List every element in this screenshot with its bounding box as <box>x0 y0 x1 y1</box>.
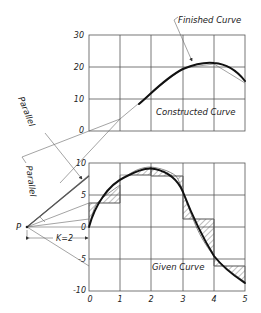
y-tick-30: 30 <box>74 31 84 40</box>
x-tick-4: 4 <box>211 295 216 304</box>
y-tick-0: 0 <box>81 223 86 232</box>
y-tick-minus10: -10 <box>73 286 86 295</box>
top-y-axis-ticks: 30 20 10 0 <box>74 31 84 135</box>
constructed-curve-label: Constructed Curve <box>156 107 236 117</box>
parallel-label-leader <box>22 157 26 163</box>
y-tick-5: 5 <box>81 191 86 200</box>
given-curve-label: Given Curve <box>152 262 204 272</box>
parallel-label-lower: Parallel <box>24 165 38 198</box>
parallel-transfer-lines <box>22 119 120 222</box>
k-dimension-label: K=2 <box>56 234 73 243</box>
graphical-integration-diagram: 30 20 10 0 Constructed Curve Finished Cu… <box>0 0 261 313</box>
parallel-label-upper: Parallel <box>16 95 37 128</box>
mean-ordinate-steps <box>89 175 245 266</box>
x-tick-2: 2 <box>148 295 153 304</box>
x-tick-1: 1 <box>117 295 122 304</box>
finished-curve-line <box>139 63 245 104</box>
finished-curve-label: Finished Curve <box>178 15 241 25</box>
pole-point <box>26 226 29 229</box>
y-tick-10: 10 <box>74 95 84 104</box>
x-tick-5: 5 <box>242 295 247 304</box>
x-tick-0: 0 <box>87 295 92 304</box>
x-tick-3: 3 <box>180 295 185 304</box>
pole-label: P <box>16 222 22 232</box>
bottom-x-axis-ticks: 0 1 2 3 4 5 <box>87 295 247 304</box>
constructed-curve-line <box>89 64 245 131</box>
y-tick-20: 20 <box>74 63 84 72</box>
